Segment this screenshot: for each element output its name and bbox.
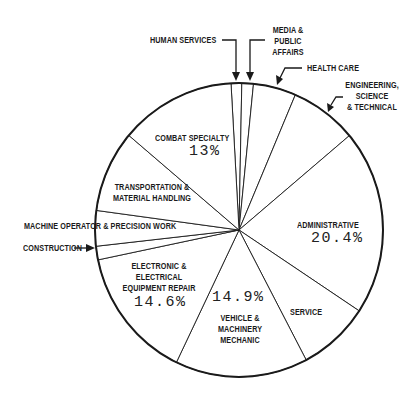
label-vehicle-line2: MACHINERY — [216, 324, 264, 335]
label-electronic-line2: ELECTRICAL — [120, 272, 197, 283]
pie-chart — [0, 0, 418, 400]
value-combat-specialty: 13% — [189, 143, 221, 160]
label-eng-line3: & TECHNICAL — [344, 102, 399, 113]
value-electronic-repair: 14.6% — [134, 294, 187, 311]
label-transport-line2: MATERIAL HANDLING — [109, 193, 195, 204]
label-human-services: HUMAN SERVICES — [150, 35, 216, 46]
label-vehicle-line3: MECHANIC — [216, 335, 264, 346]
label-electronic-repair: ELECTRONIC & ELECTRICAL EQUIPMENT REPAIR — [120, 261, 197, 294]
label-media-line1: MEDIA & — [266, 25, 311, 36]
label-transport-line1: TRANSPORTATION & — [109, 182, 195, 193]
label-electronic-line1: ELECTRONIC & — [120, 261, 197, 272]
arrow-health-care — [280, 68, 302, 78]
label-media-line2: PUBLIC — [266, 36, 311, 47]
label-eng-line1: ENGINEERING, — [344, 80, 399, 91]
value-vehicle-mechanic: 14.9% — [212, 289, 265, 306]
label-engineering: ENGINEERING, SCIENCE & TECHNICAL — [344, 80, 399, 113]
label-transportation: TRANSPORTATION & MATERIAL HANDLING — [109, 182, 195, 204]
label-health-care: HEALTH CARE — [307, 63, 359, 74]
value-administrative: 20.4% — [311, 230, 364, 247]
label-vehicle-line1: VEHICLE & — [216, 313, 264, 324]
arrow-media — [250, 40, 265, 74]
label-vehicle-mechanic: VEHICLE & MACHINERY MECHANIC — [216, 313, 264, 346]
label-eng-line2: SCIENCE — [344, 91, 399, 102]
label-machine-operator: MACHINE OPERATOR & PRECISION WORK — [24, 221, 176, 232]
label-electronic-line3: EQUIPMENT REPAIR — [120, 283, 197, 294]
label-media-line3: AFFAIRS — [266, 47, 311, 58]
arrow-engineering — [331, 97, 343, 105]
label-service: SERVICE — [290, 307, 322, 318]
label-media-public-affairs: MEDIA & PUBLIC AFFAIRS — [266, 25, 311, 58]
label-construction: CONSTRUCTION — [23, 243, 82, 254]
arrow-human-services — [222, 40, 236, 74]
